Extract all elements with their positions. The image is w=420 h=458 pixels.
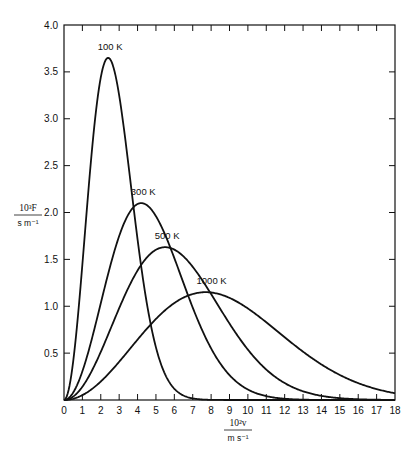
x-tick-label: 7 <box>190 405 196 416</box>
plot-frame <box>64 25 395 400</box>
x-tick-label: 15 <box>334 405 346 416</box>
curve-label-300k: 300 K <box>131 186 156 197</box>
x-tick-label: 6 <box>172 405 178 416</box>
y-tick-label: 1.5 <box>44 254 58 265</box>
x-tick-label: 14 <box>316 405 328 416</box>
x-tick-label: 17 <box>371 405 383 416</box>
x-axis-ticks: 0123456789101112131415161718 <box>61 25 401 416</box>
x-axis-label-numerator: 10²v <box>229 418 246 428</box>
y-axis-label-numerator: 10³F <box>19 203 37 213</box>
x-tick-label: 13 <box>297 405 309 416</box>
x-axis-label: 10²v m s⁻¹ <box>224 418 252 443</box>
y-tick-label: 2.0 <box>44 207 58 218</box>
maxwell-distribution-chart: 0123456789101112131415161718 0.51.01.52.… <box>0 0 420 458</box>
x-tick-label: 12 <box>279 405 291 416</box>
curve-label-500k: 500 K <box>155 230 180 241</box>
curve-labels: 100 K300 K500 K1000 K <box>98 41 228 286</box>
x-tick-label: 9 <box>227 405 233 416</box>
x-tick-label: 0 <box>61 405 67 416</box>
x-tick-label: 18 <box>389 405 401 416</box>
y-tick-label: 4.0 <box>44 20 58 31</box>
y-tick-label: 1.0 <box>44 301 58 312</box>
y-tick-label: 3.0 <box>44 113 58 124</box>
x-tick-label: 3 <box>116 405 122 416</box>
x-tick-label: 5 <box>153 405 159 416</box>
x-tick-label: 16 <box>353 405 365 416</box>
y-axis-label: 10³F s m⁻¹ <box>14 203 42 228</box>
distribution-curves <box>64 58 395 400</box>
x-tick-label: 1 <box>80 405 86 416</box>
x-tick-label: 10 <box>242 405 254 416</box>
plot-border <box>64 25 395 400</box>
y-axis-label-denominator: s m⁻¹ <box>17 218 38 228</box>
y-tick-label: 3.5 <box>44 66 58 77</box>
x-axis-label-denominator: m s⁻¹ <box>227 433 248 443</box>
x-tick-label: 11 <box>261 405 272 416</box>
x-tick-label: 8 <box>208 405 214 416</box>
curve-1000k <box>64 292 395 400</box>
y-tick-label: 2.5 <box>44 160 58 171</box>
x-tick-label: 2 <box>98 405 104 416</box>
curve-300k <box>64 203 395 400</box>
curve-label-1000k: 1000 K <box>197 275 228 286</box>
y-tick-label: 0.5 <box>44 348 58 359</box>
x-tick-label: 4 <box>135 405 141 416</box>
curve-label-100k: 100 K <box>98 41 123 52</box>
curve-100k <box>64 58 395 400</box>
